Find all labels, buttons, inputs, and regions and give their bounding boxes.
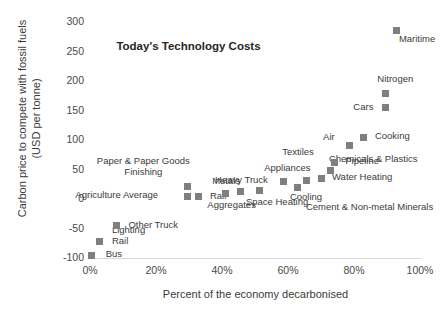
data-point-marker: [184, 183, 191, 190]
data-point-marker: [96, 238, 103, 245]
y-tick-label: -100: [48, 252, 84, 262]
data-point-marker: [222, 190, 229, 197]
data-point-label: Water Heating: [332, 172, 392, 183]
data-point-marker: [318, 175, 325, 182]
data-point-label: Cooking: [375, 131, 410, 142]
data-point-marker: [113, 222, 120, 229]
data-point-label: Other Truck: [128, 220, 178, 231]
y-axis-title: Carbon price to compete with fossil fuel…: [16, 0, 43, 244]
chart-title: Today's Technology Costs: [116, 40, 260, 52]
x-tick-label: 80%: [331, 264, 377, 276]
data-point-marker: [382, 104, 389, 111]
x-axis-line: [90, 258, 421, 259]
data-point-label: Textiles: [282, 147, 314, 158]
x-tick-label: 40%: [199, 264, 245, 276]
data-point-marker: [280, 178, 287, 185]
data-point-label: Bus: [106, 249, 122, 260]
data-point-label: Pipeline: [345, 156, 379, 167]
data-point-marker: [184, 193, 191, 200]
x-tick-label: 60%: [265, 264, 311, 276]
data-point-label: Appliances: [264, 163, 310, 174]
data-point-label: Nitrogen: [377, 74, 413, 85]
y-tick-label: 50: [48, 164, 84, 174]
data-point-marker: [237, 188, 244, 195]
data-point-marker: [294, 184, 301, 191]
data-point-marker: [303, 177, 310, 184]
data-point-marker: [88, 252, 95, 259]
y-tick-label: 200: [48, 75, 84, 85]
data-point-label: Maritime: [399, 34, 435, 45]
x-tick-label: 100%: [397, 264, 440, 276]
data-point-label: Agriculture Average: [75, 190, 158, 201]
data-point-label: Cement & Non-metal Minerals: [306, 202, 433, 213]
y-axis-title-line1: Carbon price to compete with fossil fuel…: [16, 20, 28, 217]
data-point-label: Cars: [353, 102, 373, 113]
y-tick-label: 100: [48, 134, 84, 144]
x-tick-label: 0%: [67, 264, 113, 276]
x-tick-label: 20%: [133, 264, 179, 276]
data-point-marker: [195, 193, 202, 200]
y-tick-label: 150: [48, 105, 84, 115]
y-tick-label: 250: [48, 46, 84, 56]
y-tick-label: 300: [48, 16, 84, 26]
data-point-marker: [360, 134, 367, 141]
data-point-label: Heavy Truck: [215, 175, 268, 186]
data-point-marker: [346, 142, 353, 149]
data-point-marker: [331, 159, 338, 166]
data-point-label: Rail: [112, 236, 128, 247]
plot-area: Today's Technology Costs BusRailLighting…: [90, 22, 420, 258]
data-point-label: Paper & Paper Goods Finishing: [95, 156, 191, 177]
data-point-marker: [382, 90, 389, 97]
data-point-marker: [256, 187, 263, 194]
y-axis-title-line2: (USD per tonne): [29, 78, 41, 158]
y-tick-label: -50: [48, 223, 84, 233]
data-point-marker: [327, 167, 334, 174]
x-axis-title: Percent of the economy decarbonised: [90, 288, 421, 300]
data-point-label: Air: [323, 132, 335, 143]
